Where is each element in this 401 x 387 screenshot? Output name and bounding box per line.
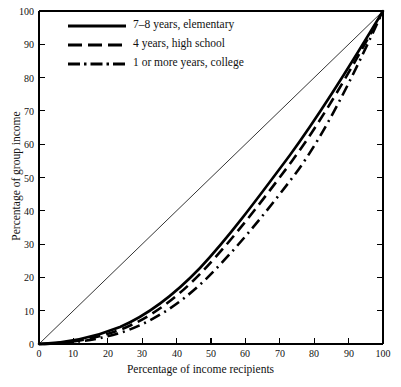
x-tick-label-80: 80: [309, 348, 319, 359]
y-tick-label-10: 10: [14, 306, 34, 317]
legend-label-high-school: 4 years, high school: [133, 37, 225, 49]
x-tick-label-90: 90: [344, 348, 354, 359]
right-axis-ticks: [377, 44, 383, 310]
legend: 7–8 years, elementary 4 years, high scho…: [68, 14, 298, 71]
x-tick-label-40: 40: [172, 348, 182, 359]
x-tick-label-30: 30: [137, 348, 147, 359]
x-tick-label-10: 10: [68, 348, 78, 359]
legend-item-high-school: 4 years, high school: [68, 33, 298, 52]
legend-label-college: 1 or more years, college: [133, 56, 244, 68]
y-tick-label-90: 90: [14, 39, 34, 50]
legend-item-college: 1 or more years, college: [68, 52, 298, 71]
y-tick-label-0: 0: [14, 339, 34, 350]
x-tick-label-20: 20: [103, 348, 113, 359]
x-tick-label-70: 70: [275, 348, 285, 359]
y-axis-title: Percentage of group income: [10, 76, 22, 276]
legend-item-elementary: 7–8 years, elementary: [68, 14, 298, 33]
legend-label-elementary: 7–8 years, elementary: [133, 18, 234, 30]
y-axis-ticks: [39, 11, 45, 344]
x-axis-title: Percentage of income recipients: [0, 363, 401, 375]
lorenz-curve-figure: 0 10 20 30 40 50 60 70 80 90 100 0 10 20…: [0, 0, 401, 387]
x-tick-label-0: 0: [37, 348, 42, 359]
x-tick-label-100: 100: [376, 348, 391, 359]
dash-dot-line-key: [68, 56, 128, 68]
solid-line-key: [68, 18, 128, 30]
y-tick-label-100: 100: [10, 6, 34, 17]
dashed-line-key: [68, 37, 128, 49]
x-tick-label-50: 50: [206, 348, 216, 359]
x-tick-label-60: 60: [240, 348, 250, 359]
